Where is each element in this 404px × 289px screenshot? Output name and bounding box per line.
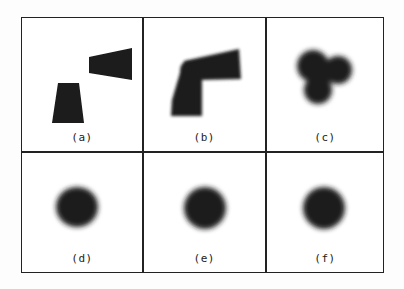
panel-label-b: (b) (144, 131, 266, 144)
trapezoid-block-upper (89, 48, 132, 80)
blob-core (307, 62, 339, 82)
round-blob (56, 187, 98, 227)
round-blob (184, 187, 226, 229)
panel-d: (d) (22, 153, 142, 272)
trapezoid-block-lower (52, 83, 84, 123)
panel-label-f: (f) (267, 252, 384, 265)
panel-label-e: (e) (144, 252, 266, 265)
panel-label-a: (a) (22, 131, 142, 144)
panel-label-c: (c) (267, 131, 384, 144)
panel-e: (e) (144, 153, 266, 272)
panel-a: (a) (22, 18, 142, 151)
round-blob (303, 187, 345, 229)
panel-b: (b) (144, 18, 266, 151)
panel-f: (f) (267, 153, 384, 272)
panel-label-d: (d) (22, 252, 142, 265)
figure-grid: (a) (b) (21, 17, 384, 273)
blob-corner (180, 60, 200, 80)
panel-c: (c) (267, 18, 384, 151)
